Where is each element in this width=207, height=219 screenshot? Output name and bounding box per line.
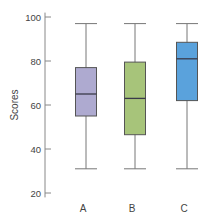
box-c — [176, 24, 198, 169]
x-axis-labels: ABC — [80, 203, 188, 214]
boxes — [75, 24, 198, 169]
y-tick-label: 80 — [30, 56, 41, 67]
y-axis-label: Scores — [9, 89, 20, 120]
x-category-label: B — [129, 203, 136, 214]
iqr-box — [76, 68, 97, 116]
iqr-box — [177, 42, 198, 100]
box-a — [75, 24, 97, 169]
y-tick-label: 60 — [30, 100, 41, 111]
box-b — [124, 24, 146, 169]
y-axis: 20406080100 — [25, 12, 51, 199]
x-category-label: A — [80, 203, 87, 214]
y-tick-label: 100 — [25, 12, 41, 23]
y-tick-label: 40 — [30, 144, 41, 155]
box-plot-chart: 20406080100 ABC Scores — [0, 0, 207, 219]
x-category-label: C — [180, 203, 187, 214]
y-tick-label: 20 — [30, 188, 41, 199]
